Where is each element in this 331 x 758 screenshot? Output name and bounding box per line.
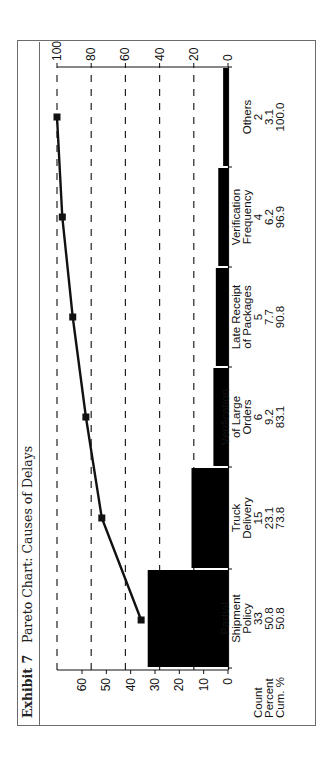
bar-0	[148, 570, 228, 667]
count-tick-label: 20	[172, 678, 186, 692]
count-tick-label: 30	[148, 678, 162, 692]
category-label-block: Late Receiptof Packages57.790.8	[220, 267, 286, 367]
row-label-cum: Cum. %	[275, 677, 286, 718]
cumulative-marker-0	[138, 617, 145, 624]
category-label-block: PartialShipmentPolicy3350.850.8	[220, 569, 286, 669]
category-cum-percent: 73.8	[275, 468, 286, 568]
rotated-figure: Exhibit 7 Pareto Chart: Causes of Delays…	[17, 40, 316, 726]
count-tick-label: 40	[124, 678, 138, 692]
cumulative-marker-5	[54, 114, 61, 121]
percent-tick-label: 20	[187, 47, 201, 61]
category-label-block: Verificationof LargeOrders69.283.1	[220, 367, 286, 467]
category-label-block: VerificationFrequency46.296.9	[220, 167, 286, 267]
cumulative-percent-line	[57, 117, 141, 620]
count-tick-label: 0	[221, 678, 235, 685]
category-cum-percent: 83.1	[275, 367, 286, 467]
count-tick-label: 60	[75, 678, 89, 692]
count-tick-label: 10	[197, 678, 211, 692]
count-tick-label: 50	[99, 678, 113, 692]
percent-tick-label: 0	[221, 54, 235, 61]
cumulative-marker-2	[82, 414, 89, 421]
bars	[148, 68, 228, 667]
category-cum-percent: 100.0	[275, 67, 286, 167]
category-label-block: TruckDelivery1523.173.8	[220, 468, 286, 568]
cumulative-line	[54, 114, 145, 624]
percent-tick-label: 80	[84, 47, 98, 61]
cumulative-marker-4	[59, 214, 66, 221]
percent-tick-label: 100	[50, 41, 64, 61]
cumulative-marker-1	[98, 515, 105, 522]
category-cum-percent: 96.9	[275, 167, 286, 267]
percent-tick-label: 40	[153, 47, 167, 61]
category-cum-percent: 90.8	[275, 267, 286, 367]
percent-tick-label: 60	[118, 47, 132, 61]
category-label-block: Others23.1100.0	[220, 67, 286, 167]
cumulative-marker-3	[69, 314, 76, 321]
category-cum-percent: 50.8	[275, 569, 286, 669]
